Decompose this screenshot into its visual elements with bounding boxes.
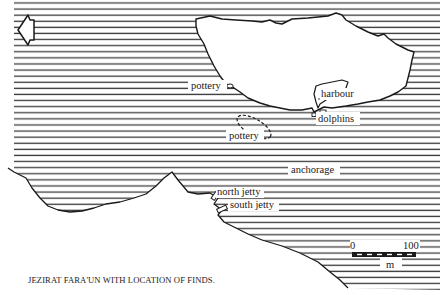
map-caption: JEZIRAT FARA'UN WITH LOCATION OF FINDS. [28,275,215,285]
map-jezirat-faraun: pottery harbour dolphins pottery anchora… [0,0,440,295]
label-harbour: harbour [321,88,354,99]
scale-unit-label: m [386,259,394,270]
label-anchorage: anchorage [291,164,334,175]
label-south-jetty: south jetty [230,199,275,210]
scale-start-label: 0 [350,240,355,251]
label-pottery-offshore: pottery [229,130,259,141]
label-dolphins: dolphins [318,113,354,124]
label-north-jetty: north jetty [217,186,261,197]
label-pottery-shore: pottery [191,80,221,91]
pottery-shore-marker [227,84,233,88]
dolphin-marker-1 [312,113,316,117]
scale-end-label: 100 [403,240,419,251]
